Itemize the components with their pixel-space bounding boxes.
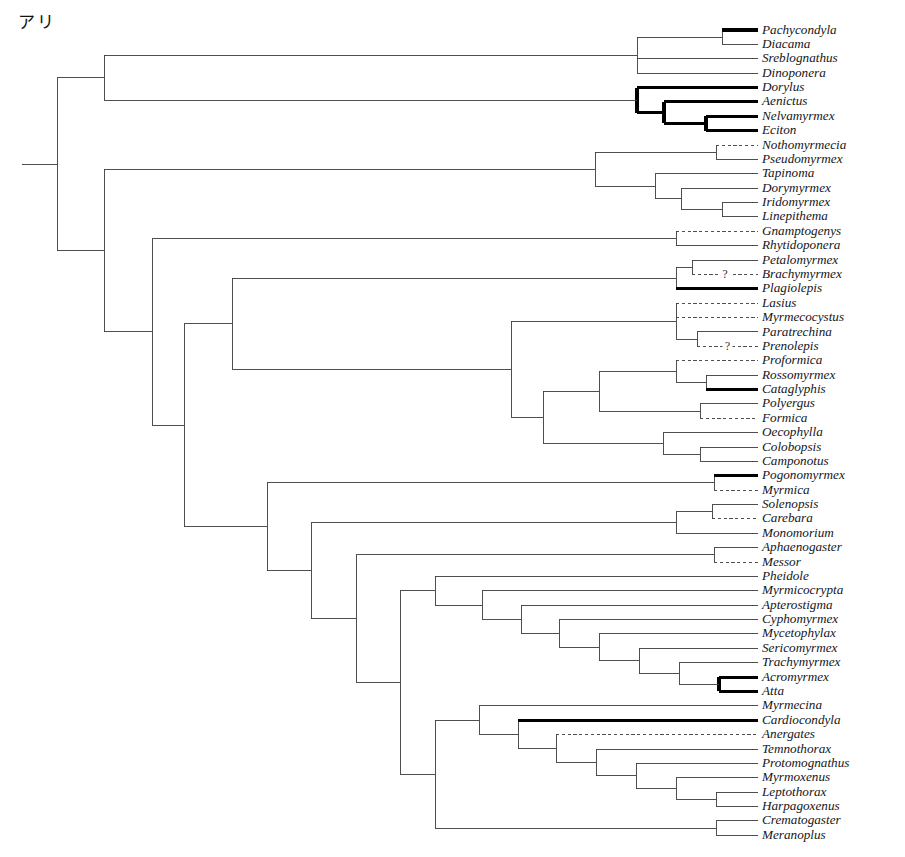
taxon-label: Pheidole <box>761 568 809 583</box>
taxon-label: Dorymyrmex <box>761 180 831 195</box>
taxon-label: Cardiocondyla <box>762 712 841 727</box>
taxon-label: Diacama <box>761 36 811 51</box>
taxon-label: Colobopsis <box>762 439 821 454</box>
taxon-label: Temnothorax <box>762 741 831 756</box>
taxon-label: Myrmoxenus <box>761 769 830 784</box>
taxon-label: Apterostigma <box>761 597 833 612</box>
taxon-label: Iridomyrmex <box>761 194 830 209</box>
taxon-label: Nothomyrmecia <box>761 137 847 152</box>
taxon-label: Brachymyrmex <box>762 266 842 281</box>
taxon-label: Harpagoxenus <box>761 798 840 813</box>
taxon-label: Protomognathus <box>761 755 849 770</box>
taxon-label: Anergates <box>761 726 815 741</box>
taxon-label: Pachycondyla <box>761 22 837 37</box>
taxon-label: Myrmecocystus <box>761 309 844 324</box>
taxon-label: Dinoponera <box>761 65 826 80</box>
taxon-label: Eciton <box>761 122 797 137</box>
uncertainty-question-mark: ? <box>722 268 727 280</box>
taxon-label: Prenolepis <box>761 338 819 353</box>
taxon-label: Camponotus <box>762 453 829 468</box>
taxon-label: Sericomyrmex <box>762 640 838 655</box>
taxon-label: Tapinoma <box>762 165 815 180</box>
taxon-label: Cyphomyrmex <box>762 611 838 626</box>
taxon-label: Myrmica <box>761 482 810 497</box>
taxon-label: Rhytidoponera <box>761 237 841 252</box>
taxon-label: Polyergus <box>761 395 815 410</box>
taxon-label: Plagiolepis <box>761 280 822 295</box>
taxon-label: Mycetophylax <box>761 625 836 640</box>
taxon-label: Myrmecina <box>761 697 822 712</box>
taxon-label: Trachymyrmex <box>762 654 841 669</box>
taxon-label: Cataglyphis <box>762 381 826 396</box>
taxon-label: Dorylus <box>761 79 805 94</box>
phylogenetic-tree: PachycondylaDiacamaSreblognathusDinopone… <box>0 0 905 857</box>
taxon-label: Formica <box>761 410 808 425</box>
taxon-label: Oecophylla <box>762 424 823 439</box>
taxon-label: Petalomyrmex <box>761 252 838 267</box>
taxon-label: Meranoplus <box>761 827 826 842</box>
taxon-label: Nelvamyrmex <box>761 108 835 123</box>
taxon-label: Atta <box>761 683 784 698</box>
taxon-label: Acromyrmex <box>761 669 829 684</box>
taxon-label: Pseudomyrmex <box>761 151 843 166</box>
uncertainty-question-mark: ? <box>725 340 730 352</box>
taxon-label: Gnamptogenys <box>762 223 841 238</box>
taxon-label: Linepithema <box>761 208 828 223</box>
taxon-label: Rossomyrmex <box>761 367 835 382</box>
taxon-label: Messor <box>761 554 802 569</box>
taxon-label: Leptothorax <box>761 784 827 799</box>
taxon-label: Monomorium <box>761 525 834 540</box>
taxon-label: Paratrechina <box>761 324 832 339</box>
taxon-label: Aphaenogaster <box>761 539 843 554</box>
taxon-label: Crematogaster <box>762 812 842 827</box>
taxon-label: Aenictus <box>761 93 807 108</box>
taxon-label: Myrmicocrypta <box>761 582 844 597</box>
taxon-label: Sreblognathus <box>762 50 838 65</box>
taxon-label: Pogonomyrmex <box>761 467 845 482</box>
taxon-label: Lasius <box>761 295 796 310</box>
taxon-label: Proformica <box>761 352 823 367</box>
taxon-label: Solenopsis <box>762 496 818 511</box>
taxon-label: Carebara <box>762 510 813 525</box>
